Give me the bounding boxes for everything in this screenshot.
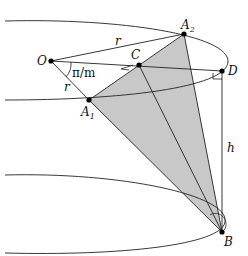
label-angle: π/m <box>72 66 96 80</box>
label-h: h <box>227 141 235 155</box>
label-r-top: r <box>115 34 122 48</box>
label-r-left: r <box>64 80 71 94</box>
angle-arc-o <box>66 62 71 77</box>
label-o: O <box>37 54 47 68</box>
point-o <box>48 58 53 63</box>
label-a2: A2 <box>180 18 195 34</box>
label-c: C <box>131 48 140 62</box>
point-a2 <box>181 31 186 36</box>
label-b: B <box>223 235 233 249</box>
label-a1: A1 <box>80 105 95 121</box>
label-d: D <box>227 64 238 78</box>
cylinder-diagram: O A2 A1 C D B r r h π/m <box>0 0 248 256</box>
shaded-triangle <box>89 34 222 232</box>
point-c <box>136 62 141 67</box>
point-b <box>219 229 224 234</box>
point-a1 <box>86 97 91 102</box>
point-d <box>219 68 224 73</box>
